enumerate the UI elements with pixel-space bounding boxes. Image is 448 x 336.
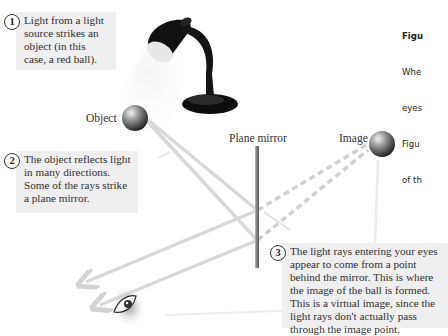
object-label: Object (86, 112, 117, 124)
callout-1-text: Light from a light source strikes an obj… (24, 14, 104, 66)
callout-3-text: The light rays entering your eyes appear… (290, 245, 438, 336)
callout-2-text: The object reflects light in many direct… (24, 153, 131, 205)
callout-3: 3 The light rays entering your eyes appe… (282, 243, 448, 328)
figure-caption: Figu Whe eyes Figu of th (402, 6, 423, 210)
caption-line: eyes (402, 102, 423, 114)
callout-1: 1 Light from a light source strikes an o… (16, 12, 116, 70)
step-number-1: 1 (4, 14, 20, 30)
caption-line: of th (402, 174, 423, 186)
mirror-label: Plane mirror (229, 132, 287, 144)
ball-object-icon (122, 105, 148, 131)
step-number-2: 2 (4, 153, 20, 169)
ball-image-icon (369, 131, 395, 157)
virtual-rays-dashed (258, 145, 368, 240)
caption-line: Whe (402, 66, 423, 78)
light-beam (110, 40, 190, 150)
caption-title: Figu (402, 30, 423, 42)
step-number-3: 3 (270, 245, 286, 261)
caption-line: Figu (402, 138, 423, 150)
mirror-icon (255, 146, 259, 268)
image-label: Image (339, 132, 368, 144)
callout-2: 2 The object reflects light in many dire… (16, 151, 138, 213)
